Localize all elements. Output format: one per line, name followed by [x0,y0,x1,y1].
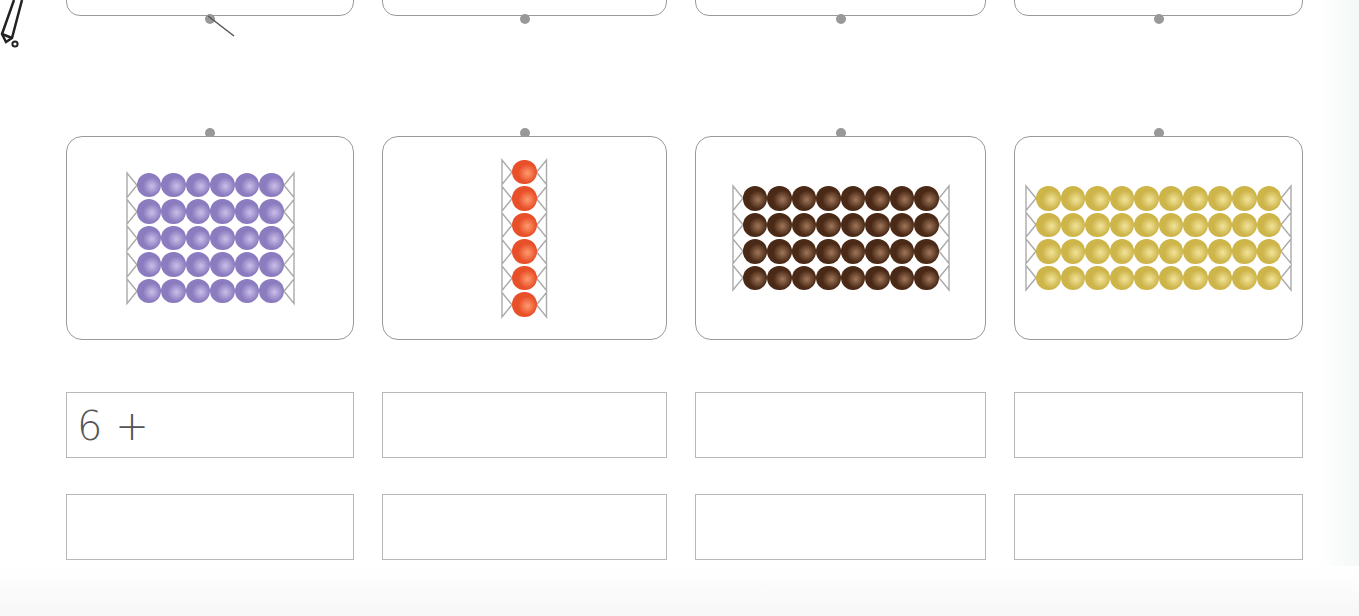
bead-row [512,239,537,264]
bead-icon [743,186,768,211]
bead-icon [259,173,284,198]
bead-icon [235,279,260,304]
bead-icon [235,173,260,198]
bead-icon [512,186,537,211]
bead-icon [210,279,235,304]
bead-icon [1232,239,1257,264]
bead-icon [890,266,915,291]
bead-icon [259,199,284,224]
bead-icon [816,239,841,264]
bead-icon [186,279,211,304]
bead-icon [914,213,939,238]
answer-box[interactable] [695,392,986,458]
bead-row [743,266,939,291]
hanging-peg-icon [520,14,530,24]
bead-icon [161,199,186,224]
bead-icon [890,186,915,211]
bead-icon [914,239,939,264]
bead-icon [841,213,866,238]
bead-icon [1257,266,1282,291]
bead-icon [512,292,537,317]
bead-row [743,213,939,238]
bead-icon [210,226,235,251]
bead-icon [914,266,939,291]
bead-icon [767,266,792,291]
pencil-icon [0,0,30,50]
bead-icon [1208,266,1233,291]
bead-icon [792,186,817,211]
answer-box[interactable] [66,494,354,560]
answer-box[interactable] [1014,392,1303,458]
bead-icon [259,252,284,277]
bead-icon [161,279,186,304]
bead-icon [1085,186,1110,211]
bead-icon [210,252,235,277]
bead-icon [235,199,260,224]
hanging-peg-icon [1154,14,1164,24]
bead-icon [1110,266,1135,291]
bead-icon [743,266,768,291]
bead-icon [259,279,284,304]
bead-icon [161,173,186,198]
bead-icon [792,266,817,291]
bead-icon [512,213,537,238]
bead-icon [1183,186,1208,211]
bead-icon [1134,213,1159,238]
bead-row [743,239,939,264]
bead-icon [865,213,890,238]
answer-box[interactable] [695,494,986,560]
pointer-line [204,12,240,40]
bead-icon [235,252,260,277]
bead-icon [865,266,890,291]
bead-icon [1257,186,1282,211]
bead-icon [1232,213,1257,238]
bead-row [512,266,537,291]
bead-icon [210,199,235,224]
bead-icon [1134,186,1159,211]
answer-box[interactable] [382,392,667,458]
bead-icon [1036,266,1061,291]
bead-icon [1085,239,1110,264]
bottom-bleed [0,566,1359,616]
bead-icon [743,239,768,264]
bead-icon [137,226,162,251]
bead-icon [1061,266,1086,291]
bead-icon [816,266,841,291]
bead-icon [235,226,260,251]
bead-row [512,213,537,238]
bead-icon [1159,186,1184,211]
bead-icon [865,186,890,211]
bead-icon [186,252,211,277]
bead-icon [767,239,792,264]
answer-box[interactable]: 6 + [66,392,354,458]
answer-box[interactable] [382,494,667,560]
bead-icon [1085,213,1110,238]
bead-bar-red [512,160,537,317]
bead-icon [1208,239,1233,264]
bead-icon [1183,213,1208,238]
bead-icon [210,173,235,198]
bead-icon [1183,239,1208,264]
bead-icon [512,160,537,185]
bead-icon [767,213,792,238]
bead-icon [137,279,162,304]
bead-icon [1036,239,1061,264]
bead-bar-gold [1036,186,1281,290]
bead-icon [161,252,186,277]
bead-icon [1061,186,1086,211]
bead-row [512,292,537,317]
bead-icon [792,239,817,264]
bead-icon [1232,266,1257,291]
bead-row [137,279,284,304]
bead-icon [1061,213,1086,238]
answer-box[interactable] [1014,494,1303,560]
bead-icon [137,252,162,277]
bead-icon [1208,186,1233,211]
bead-icon [161,226,186,251]
bead-bar-brown [743,186,939,290]
bead-icon [1159,239,1184,264]
bead-icon [259,226,284,251]
bead-icon [186,173,211,198]
bead-icon [1110,239,1135,264]
bead-icon [137,199,162,224]
